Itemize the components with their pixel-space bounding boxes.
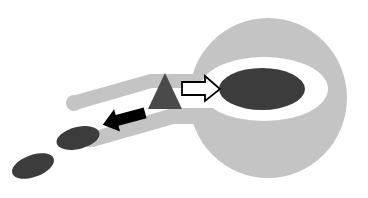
schematic-diagram (0, 0, 368, 198)
core-dark-ellipse (219, 68, 305, 110)
upper-tube-cap (66, 95, 82, 111)
diagram-canvas (0, 0, 368, 198)
